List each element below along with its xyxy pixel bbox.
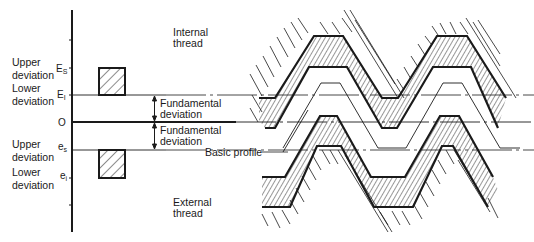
thread-tolerance-diagram: Upper deviation Lower deviation Upper de… (0, 0, 534, 242)
internal-thread-label-b: thread (173, 37, 203, 49)
lower-deviation-label-1: Lower (12, 82, 41, 94)
lower-deviation-label-2: Lower (12, 166, 41, 178)
symbol-zero: O (58, 117, 66, 128)
external-thread-label-b: thread (173, 207, 203, 219)
upper-deviation-label-2b: deviation (12, 151, 54, 163)
symbol-E-S: ES (56, 63, 68, 75)
basic-profile-label: Basic profile (205, 146, 262, 158)
symbol-e-s: es (58, 141, 68, 153)
upper-deviation-label-2: Upper (12, 138, 41, 150)
external-thread-profile (262, 116, 498, 232)
external-tolerance-zone (99, 150, 125, 178)
fundamental-deviation-label-1b: deviation (160, 108, 202, 120)
internal-thread-band (259, 36, 506, 128)
internal-thread-profile (250, 10, 516, 128)
diagram-svg: Upper deviation Lower deviation Upper de… (0, 0, 534, 242)
upper-deviation-label-1b: deviation (12, 69, 54, 81)
fundamental-deviation-label-2b: deviation (160, 135, 202, 147)
upper-deviation-label-1: Upper (12, 56, 41, 68)
lower-deviation-label-2b: deviation (12, 179, 54, 191)
internal-tolerance-zone (99, 68, 125, 95)
lower-deviation-label-1b: deviation (12, 95, 54, 107)
symbol-e-i: ei (60, 170, 68, 182)
symbol-E-I: EI (57, 89, 66, 101)
